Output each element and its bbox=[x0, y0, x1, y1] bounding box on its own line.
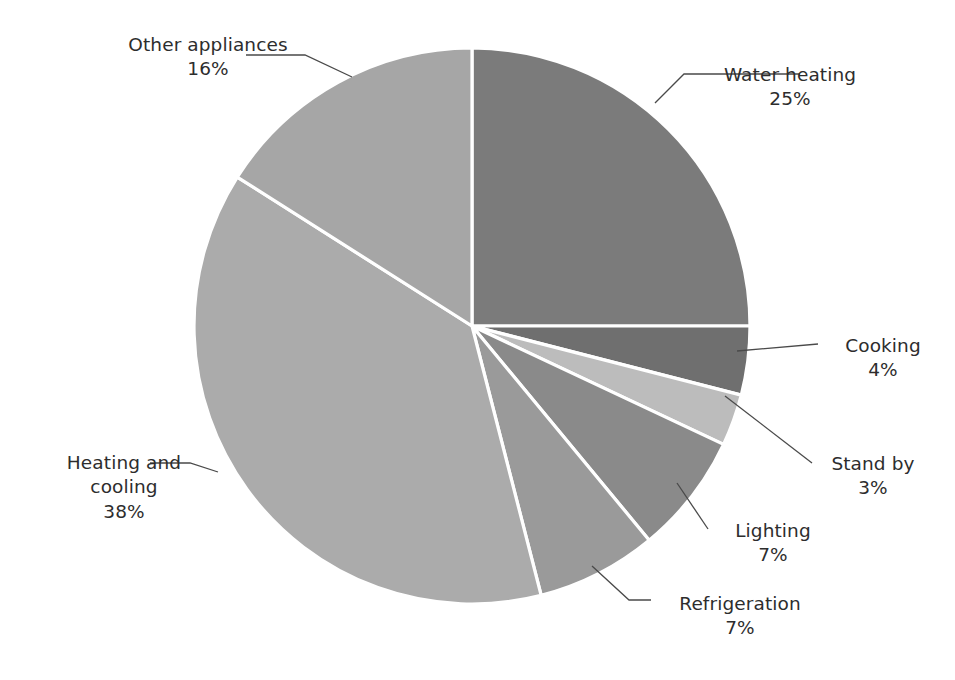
pie-chart-figure: Water heating 25%Cooking 4%Stand by 3%Li… bbox=[0, 0, 955, 680]
pie-label-refrigeration-name: Refrigeration bbox=[644, 592, 836, 616]
pie-label-water-heating: Water heating 25% bbox=[700, 63, 880, 112]
pie-slice-group: Water heating 25%Cooking 4%Stand by 3%Li… bbox=[194, 48, 750, 604]
leader-line-stand-by bbox=[725, 396, 812, 463]
pie-label-lighting: Lighting 7% bbox=[712, 519, 834, 568]
pie-label-stand-by-value: 3% bbox=[812, 476, 934, 500]
pie-label-cooking-name: Cooking bbox=[822, 334, 944, 358]
pie-label-stand-by-name: Stand by bbox=[812, 452, 934, 476]
pie-label-refrigeration: Refrigeration 7% bbox=[644, 592, 836, 641]
pie-label-other-appliances-name: Other appliances bbox=[98, 33, 318, 57]
pie-label-heating-and-cooling-name-line2: cooling bbox=[38, 475, 210, 499]
pie-label-other-appliances-value: 16% bbox=[98, 57, 318, 81]
pie-label-stand-by: Stand by 3% bbox=[812, 452, 934, 501]
pie-label-lighting-name: Lighting bbox=[712, 519, 834, 543]
pie-label-cooking: Cooking 4% bbox=[822, 334, 944, 383]
pie-label-lighting-value: 7% bbox=[712, 543, 834, 567]
pie-label-heating-and-cooling-name-line1: Heating and bbox=[38, 451, 210, 475]
pie-label-heating-and-cooling: Heating and cooling 38% bbox=[38, 451, 210, 524]
pie-label-heating-and-cooling-value: 38% bbox=[38, 500, 210, 524]
pie-label-cooking-value: 4% bbox=[822, 358, 944, 382]
pie-label-refrigeration-value: 7% bbox=[644, 616, 836, 640]
pie-label-other-appliances: Other appliances 16% bbox=[98, 33, 318, 82]
pie-label-water-heating-value: 25% bbox=[700, 87, 880, 111]
pie-label-water-heating-name: Water heating bbox=[700, 63, 880, 87]
